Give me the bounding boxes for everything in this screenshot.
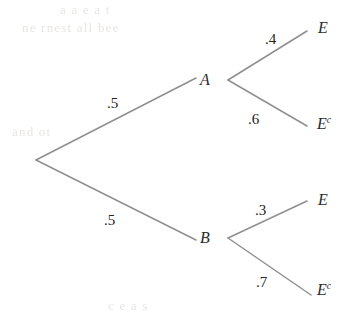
branch-root-to-a xyxy=(36,78,196,160)
branch-b-to-ec xyxy=(228,238,311,295)
leaf-letter: E xyxy=(317,281,327,298)
leaf-label-a-ec: Ec xyxy=(317,116,331,132)
edge-label-b-to-e: .3 xyxy=(255,203,266,218)
edge-label-a-to-e: .4 xyxy=(265,32,276,47)
edge-label-root-to-b: .5 xyxy=(104,213,115,228)
leaf-letter: E xyxy=(317,115,327,132)
branch-a-to-ec xyxy=(228,80,307,126)
complement-superscript: c xyxy=(327,281,331,291)
edge-label-root-to-a: .5 xyxy=(107,96,118,111)
complement-superscript: c xyxy=(327,115,331,125)
node-label-a: A xyxy=(200,72,210,88)
leaf-letter: E xyxy=(318,191,328,208)
node-label-b: B xyxy=(200,230,210,246)
leaf-label-b-ec: Ec xyxy=(317,282,331,298)
edge-label-b-to-ec: .7 xyxy=(256,275,267,290)
leaf-label-b-e: E xyxy=(318,192,328,208)
branch-b-to-e xyxy=(228,201,307,238)
branch-root-to-b xyxy=(36,160,196,240)
leaf-label-a-e: E xyxy=(318,20,328,36)
leaf-letter: E xyxy=(318,19,328,36)
edge-label-a-to-ec: .6 xyxy=(248,112,259,127)
